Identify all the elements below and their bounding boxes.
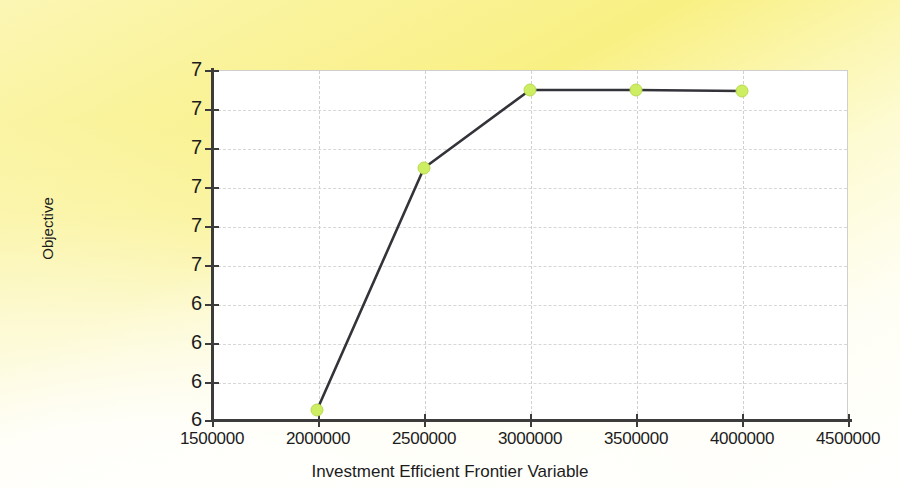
gridline-horizontal [213, 266, 847, 267]
chart-container: 7777776666 15000002000000250000030000003… [0, 0, 900, 488]
y-axis-tick-label: 7 [178, 254, 202, 274]
y-axis-tick-label: 6 [178, 409, 202, 429]
gridline-horizontal [213, 344, 847, 345]
x-axis-tick [318, 414, 320, 427]
gridline-horizontal [213, 188, 847, 189]
y-axis-tick-label: 6 [178, 371, 202, 391]
gridline-horizontal [213, 305, 847, 306]
y-axis-tick [205, 382, 219, 384]
gridline-vertical [637, 71, 638, 419]
x-axis-title: Investment Efficient Frontier Variable [0, 462, 900, 482]
y-axis-tick [205, 343, 219, 345]
gridline-horizontal [213, 149, 847, 150]
y-axis-tick-label: 7 [178, 215, 202, 235]
gridline-vertical [743, 71, 744, 419]
gridline-vertical [531, 71, 532, 419]
x-axis-tick [530, 414, 532, 427]
gridline-vertical [319, 71, 320, 419]
y-axis-tick-label: 7 [178, 98, 202, 118]
gridline-horizontal [213, 110, 847, 111]
x-axis-tick-label: 4500000 [778, 429, 900, 449]
y-axis-tick [205, 226, 219, 228]
y-axis-tick [205, 187, 219, 189]
y-axis-line [211, 68, 214, 422]
x-axis-tick [636, 414, 638, 427]
y-axis-tick-label: 7 [178, 59, 202, 79]
y-axis-tick-label: 7 [178, 137, 202, 157]
x-axis-tick [424, 414, 426, 427]
y-axis-tick [205, 304, 219, 306]
y-axis-title: Objective [39, 169, 56, 289]
plot-area [212, 70, 848, 420]
y-axis-tick [205, 109, 219, 111]
gridline-vertical [425, 71, 426, 419]
gridline-horizontal [213, 227, 847, 228]
x-axis-tick [848, 414, 850, 427]
y-axis-tick-label: 6 [178, 293, 202, 313]
y-axis-tick [205, 70, 219, 72]
y-axis-tick-label: 7 [178, 176, 202, 196]
y-axis-tick-label: 6 [178, 332, 202, 352]
y-axis-tick [205, 148, 219, 150]
x-axis-tick [212, 414, 214, 427]
y-axis-tick-labels: 7777776666 [150, 0, 202, 488]
y-axis-tick [205, 265, 219, 267]
gridline-horizontal [213, 383, 847, 384]
x-axis-tick [742, 414, 744, 427]
